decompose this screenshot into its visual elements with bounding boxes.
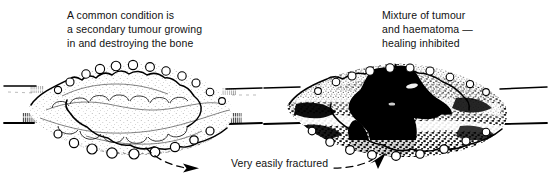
arrow-to-left-lesion-head (183, 164, 199, 173)
medical-illustration-figure: A common condition is a secondary tumour… (0, 0, 551, 189)
right-lesion-illustration (264, 60, 547, 160)
left-lesion-illustration (4, 58, 262, 159)
arrow-to-right-lesion-line (334, 160, 372, 168)
illustration-artwork (0, 0, 551, 189)
